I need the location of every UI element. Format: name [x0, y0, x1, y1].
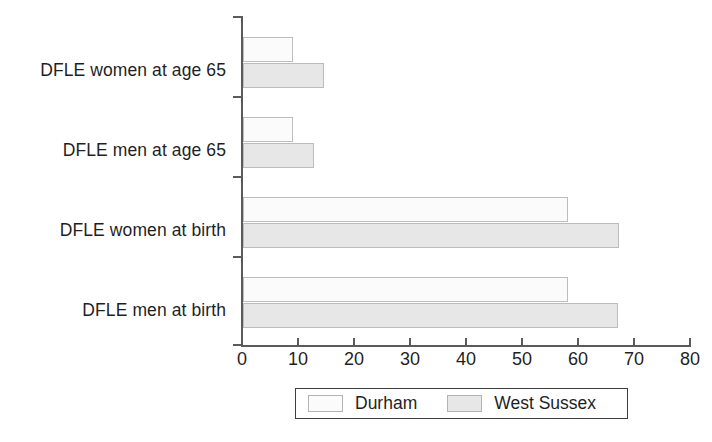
y-axis-tick: [233, 96, 242, 98]
x-axis-tick-label: 40: [456, 350, 476, 368]
bar-durham-dfle-men-at-birth: [243, 277, 568, 302]
legend-swatch-icon-west-sussex: [447, 395, 482, 412]
bar-west-sussex-dfle-men-at-birth: [243, 303, 618, 328]
x-axis-tick-label: 20: [344, 350, 364, 368]
x-axis-tick-label: 80: [680, 350, 700, 368]
bar-durham-dfle-men-at-age-65: [243, 117, 293, 142]
legend-item-west-sussex: West Sussex: [447, 395, 596, 413]
x-axis-tick: [689, 338, 691, 346]
category-label-dfle-women-at-age-65: DFLE women at age 65: [40, 62, 226, 80]
x-axis-tick: [633, 338, 635, 346]
bar-durham-dfle-women-at-birth: [243, 197, 568, 222]
legend: Durham West Sussex: [295, 388, 628, 419]
x-axis-tick-label: 10: [288, 350, 308, 368]
x-axis-tick: [241, 338, 243, 346]
bar-west-sussex-dfle-men-at-age-65: [243, 143, 314, 168]
legend-swatch-icon-durham: [308, 395, 343, 412]
category-axis-labels: DFLE women at age 65 DFLE men at age 65 …: [0, 17, 232, 345]
x-axis-tick: [577, 338, 579, 346]
y-axis-tick: [233, 16, 242, 18]
bar-west-sussex-dfle-women-at-age-65: [243, 63, 324, 88]
x-axis-tick-label: 0: [237, 350, 247, 368]
plot-area: [243, 16, 693, 346]
x-axis-tick-label: 30: [400, 350, 420, 368]
category-label-dfle-men-at-age-65: DFLE men at age 65: [63, 142, 226, 160]
legend-label-durham: Durham: [355, 395, 417, 413]
x-axis-tick: [297, 338, 299, 346]
bar-west-sussex-dfle-women-at-birth: [243, 223, 619, 248]
x-axis-tick: [353, 338, 355, 346]
bar-durham-dfle-women-at-age-65: [243, 37, 293, 62]
x-axis-tick: [409, 338, 411, 346]
category-label-dfle-men-at-birth: DFLE men at birth: [82, 302, 226, 320]
category-label-dfle-women-at-birth: DFLE women at birth: [60, 222, 226, 240]
x-axis-tick-label: 70: [624, 350, 644, 368]
y-axis-tick: [233, 256, 242, 258]
bar-chart: DFLE women at age 65 DFLE men at age 65 …: [0, 0, 712, 442]
x-axis-tick: [465, 338, 467, 346]
y-axis-tick: [233, 176, 242, 178]
x-axis-tick: [521, 338, 523, 346]
x-axis-tick-label: 50: [512, 350, 532, 368]
x-axis-tick-label: 60: [568, 350, 588, 368]
legend-label-west-sussex: West Sussex: [494, 395, 596, 413]
legend-item-durham: Durham: [308, 395, 417, 413]
